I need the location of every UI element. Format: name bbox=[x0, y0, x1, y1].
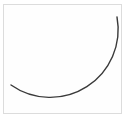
arc-diagram bbox=[0, 0, 126, 120]
arc-curve bbox=[11, 17, 118, 97]
